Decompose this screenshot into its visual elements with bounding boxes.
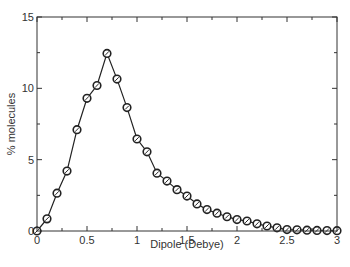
x-tick-label: 0.5	[79, 234, 94, 246]
x-tick-label: 2.5	[279, 234, 294, 246]
y-axis-label: % molecules	[5, 92, 17, 155]
x-tick-label: 1	[134, 234, 140, 246]
data-series	[33, 50, 341, 235]
y-tick-label: 15	[22, 11, 34, 23]
y-tick-label: 10	[22, 82, 34, 94]
x-tick-label: 0	[34, 234, 40, 246]
chart: 00.511.522.53051015 Dipole (Debye) % mol…	[0, 0, 350, 267]
x-axis-label: Dipole (Debye)	[150, 238, 223, 250]
tick-labels: 00.511.522.53051015	[22, 11, 340, 246]
x-tick-label: 3	[334, 234, 340, 246]
series-line	[37, 53, 337, 231]
x-tick-label: 2	[234, 234, 240, 246]
y-tick-label: 5	[28, 154, 34, 166]
